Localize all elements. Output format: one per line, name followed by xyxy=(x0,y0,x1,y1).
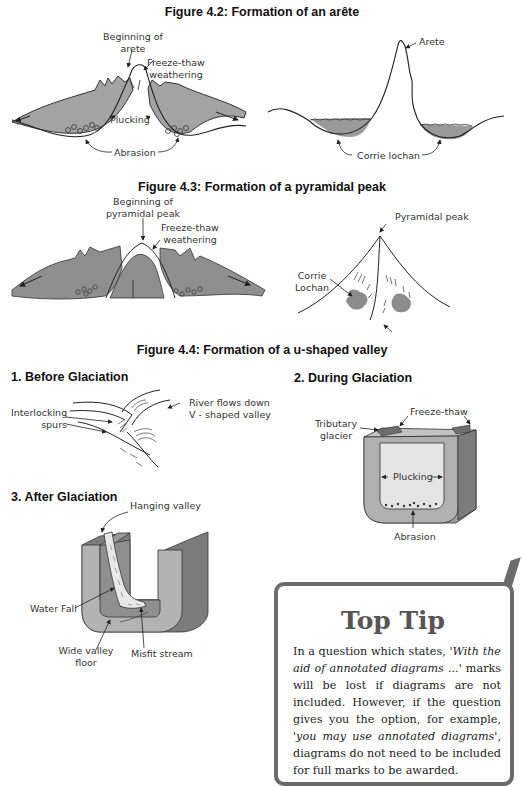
label-plucking-2: Plucking xyxy=(393,471,433,483)
label-abrasion-2: Abrasion xyxy=(394,531,436,543)
label-line: River flows down xyxy=(189,397,271,409)
figure-4-3-title: Figure 4.3: Formation of a pyramidal pea… xyxy=(0,180,524,194)
label-line: Freeze-thaw xyxy=(146,57,206,69)
during-glaciation-title: 2. During Glaciation xyxy=(294,371,412,385)
label-interlocking-spurs: Interlocking spurs xyxy=(11,407,67,431)
label-plucking: Plucking xyxy=(110,114,150,126)
figure-4-4-title: Figure 4.4: Formation of a u-shaped vall… xyxy=(0,343,524,357)
label-line: Corrie xyxy=(292,270,332,282)
label-corrie-lochan-2: Corrie Lochan xyxy=(292,270,332,294)
label-line: Lochan xyxy=(292,282,332,294)
label-line: Freeze-thaw xyxy=(158,222,222,234)
label-line: spurs xyxy=(11,419,67,431)
label-freeze-thaw-weathering: Freeze-thaw weathering xyxy=(146,57,206,81)
label-tributary-glacier: Tributary glacier xyxy=(313,418,359,442)
tip-text-part: In a question which states, xyxy=(293,645,449,658)
label-line: glacier xyxy=(313,430,359,442)
label-line: floor xyxy=(58,657,114,669)
label-water-fall: Water Fall xyxy=(30,603,77,615)
arete-corrie-lochan-diagram xyxy=(268,41,504,155)
before-glaciation-title: 1. Before Glaciation xyxy=(11,370,128,384)
label-line: Beginning of xyxy=(103,31,163,43)
label-pyramidal-peak: Pyramidal peak xyxy=(395,211,469,223)
before-glaciation-diagram xyxy=(66,390,180,467)
top-tip-text: In a question which states, 'With the ai… xyxy=(293,643,501,779)
tip-quote-2: 'you may use annotated diagrams' xyxy=(293,730,497,743)
top-tip-title: Top Tip xyxy=(278,606,508,635)
label-freeze-thaw-weathering-2: Freeze-thaw weathering xyxy=(158,222,222,246)
label-line: Beginning of xyxy=(100,196,186,208)
pyramidal-peak-formation-diagram xyxy=(12,218,265,299)
label-line: V - shaped valley xyxy=(189,409,271,421)
label-beginning-of-arete: Beginning of arete xyxy=(103,31,163,55)
label-corrie-lochan: Corrie lochan xyxy=(357,150,420,162)
label-arete: Arete xyxy=(419,36,445,48)
label-misfit-stream: Misfit stream xyxy=(131,648,193,660)
label-line: weathering xyxy=(146,69,206,81)
label-hanging-valley: Hanging valley xyxy=(130,500,201,512)
label-line: Tributary xyxy=(313,418,359,430)
after-glaciation-title: 3. After Glaciation xyxy=(11,490,118,504)
label-river-v-valley: River flows down V - shaped valley xyxy=(189,397,271,421)
after-glaciation-diagram xyxy=(75,512,208,650)
label-line: arete xyxy=(103,43,163,55)
label-line: Wide valley xyxy=(58,645,114,657)
label-freeze-thaw: Freeze-thaw xyxy=(410,406,468,418)
label-line: Interlocking xyxy=(11,407,67,419)
label-wide-valley-floor: Wide valley floor xyxy=(58,645,114,669)
label-beginning-of-pyramidal-peak: Beginning of pyramidal peak xyxy=(100,196,186,220)
label-line: weathering xyxy=(158,234,222,246)
label-line: pyramidal peak xyxy=(100,208,186,220)
arete-formation-diagram xyxy=(12,50,246,152)
label-abrasion: Abrasion xyxy=(114,147,156,159)
